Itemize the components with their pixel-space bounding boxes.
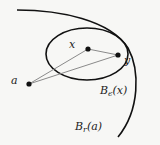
segment-a-y [29, 55, 118, 84]
label-x: x [69, 38, 76, 51]
point-x [85, 46, 90, 51]
label-ball-eps-x-main: B [99, 84, 108, 97]
label-ball-eps-x: Bϵ(x) [99, 84, 127, 98]
segment-a-x [29, 49, 88, 84]
label-ball-eps-x-arg: (x) [113, 84, 128, 97]
label-ball-r-a: Br(a) [74, 120, 102, 134]
point-a [26, 81, 31, 86]
segment-x-y [88, 49, 118, 55]
label-a: a [11, 74, 18, 87]
point-y [115, 52, 120, 57]
label-y: y [123, 54, 131, 67]
label-ball-r-a-arg: (a) [87, 120, 102, 133]
balls-diagram: a x y Bϵ(x) Br(a) [0, 0, 160, 145]
label-ball-r-a-main: B [74, 120, 83, 133]
